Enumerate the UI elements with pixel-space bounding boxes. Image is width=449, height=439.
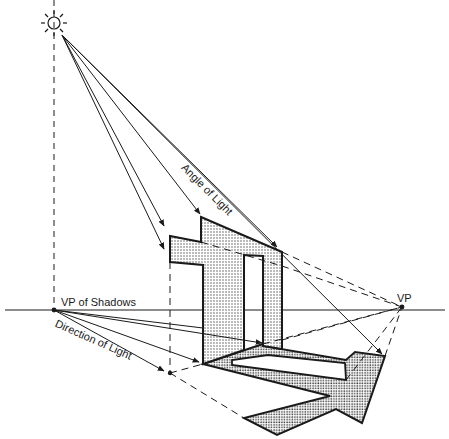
perspective-shadow-diagram bbox=[0, 0, 449, 439]
vp-label: VP bbox=[397, 293, 412, 304]
vp-of-shadows-point bbox=[52, 308, 57, 313]
t-shaped-plane bbox=[170, 217, 282, 364]
cast-shadow bbox=[203, 344, 385, 435]
vp-point bbox=[400, 305, 405, 310]
vp-of-shadows-label: VP of Shadows bbox=[61, 297, 136, 308]
shadow-foot-point bbox=[168, 371, 172, 375]
